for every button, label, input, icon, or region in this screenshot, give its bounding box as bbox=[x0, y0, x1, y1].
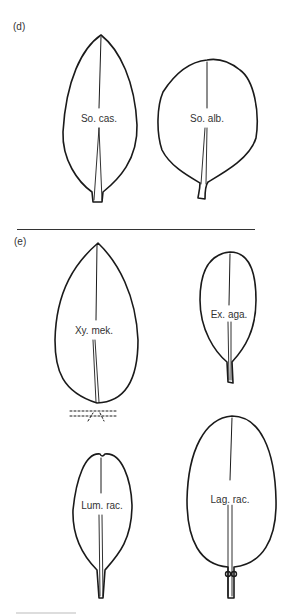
leaf-lum-rac bbox=[73, 454, 132, 598]
leaf-lag-rac bbox=[187, 416, 276, 598]
leaf-so-alb bbox=[158, 59, 257, 199]
leaf-label-lag-rac: Lag. rac. bbox=[210, 494, 251, 505]
leaf-illustrations bbox=[0, 0, 293, 616]
caption-cutoff bbox=[16, 612, 76, 614]
leaf-label-xy-mek: Xy. mek. bbox=[74, 325, 114, 336]
leaf-label-so-cas: So. cas. bbox=[80, 113, 118, 124]
leaf-label-lum-rac: Lum. rac. bbox=[80, 500, 124, 511]
leaf-label-so-alb: So. alb. bbox=[189, 113, 225, 124]
leaf-label-ex-aga: Ex. aga. bbox=[210, 309, 249, 320]
